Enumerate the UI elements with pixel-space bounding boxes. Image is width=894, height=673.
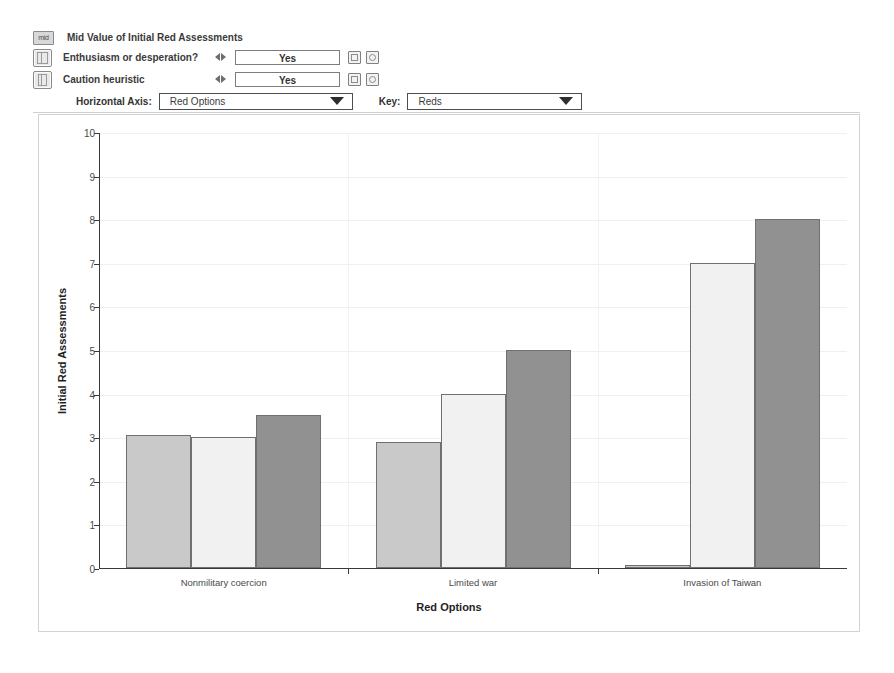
y-axis-tick-label: 0 [89, 564, 95, 575]
y-axis-tick-label: 8 [89, 215, 95, 226]
bar[interactable] [376, 442, 441, 568]
plot-inner: 012345678910 [99, 133, 847, 569]
y-axis-tick-label: 6 [89, 302, 95, 313]
y-axis-tick-label: 7 [89, 258, 95, 269]
grid-icon[interactable] [33, 71, 52, 89]
gridline [100, 177, 847, 178]
x-axis-label: Red Options [39, 601, 859, 613]
control-row-caution: Caution heuristic Yes [33, 71, 379, 88]
bar[interactable] [506, 350, 571, 568]
chevron-down-icon [559, 97, 573, 105]
control-label-enthusiasm: Enthusiasm or desperation? [63, 52, 215, 63]
x-axis-line [99, 568, 847, 569]
control-row-enthusiasm: Enthusiasm or desperation? Yes [33, 49, 379, 66]
axis-key-row: Horizontal Axis: Red Options Key: Reds [33, 92, 582, 110]
y-axis-label: Initial Red Assessments [55, 151, 69, 551]
y-axis-tick-label: 2 [89, 476, 95, 487]
gridline [100, 220, 847, 221]
gridline [100, 133, 847, 134]
horizontal-axis-select[interactable]: Red Options [159, 93, 353, 110]
bar[interactable] [441, 394, 506, 568]
key-label: Key: [379, 96, 401, 107]
chevron-down-icon [330, 97, 344, 105]
plot-area: 012345678910 Nonmilitary coercionLimited… [99, 133, 847, 569]
x-axis-category-label: Nonmilitary coercion [181, 577, 267, 588]
key-value: Reds [408, 96, 441, 107]
mid-value-icon[interactable]: mid [33, 31, 54, 45]
reset-icon-caution[interactable] [366, 73, 379, 86]
y-axis-tick-label: 10 [84, 128, 95, 139]
x-axis-category-label: Limited war [449, 577, 498, 588]
bar[interactable] [256, 415, 321, 568]
x-axis-tick [598, 569, 599, 574]
horizontal-axis-label: Horizontal Axis: [76, 96, 152, 107]
left-right-arrows-icon[interactable] [215, 51, 226, 64]
reset-icon-enthusiasm[interactable] [366, 51, 379, 64]
y-axis-tick-label: 3 [89, 433, 95, 444]
x-axis-tick [348, 569, 349, 574]
bar[interactable] [191, 437, 256, 568]
y-axis-tick-label: 4 [89, 389, 95, 400]
y-axis-tick-label: 1 [89, 520, 95, 531]
control-panel: mid Mid Value of Initial Red Assessments… [33, 28, 860, 113]
page-title: Mid Value of Initial Red Assessments [67, 32, 243, 43]
bar[interactable] [755, 219, 820, 568]
grid-icon[interactable] [33, 49, 52, 67]
value-field-enthusiasm[interactable]: Yes [235, 50, 340, 65]
y-axis-tick-label: 5 [89, 346, 95, 357]
group-separator [348, 133, 349, 569]
control-label-caution: Caution heuristic [63, 74, 215, 85]
bar[interactable] [126, 435, 191, 568]
y-axis-line [99, 133, 100, 569]
key-select[interactable]: Reds [407, 93, 582, 110]
left-right-arrows-icon[interactable] [215, 73, 226, 86]
note-icon-enthusiasm[interactable] [348, 51, 361, 64]
chart-panel: Initial Red Assessments 012345678910 Non… [38, 114, 860, 632]
value-field-caution[interactable]: Yes [235, 72, 340, 87]
x-axis-category-label: Invasion of Taiwan [683, 577, 761, 588]
group-separator [598, 133, 599, 569]
bar[interactable] [690, 263, 755, 568]
panel-title-row: mid Mid Value of Initial Red Assessments [33, 29, 243, 46]
note-icon-caution[interactable] [348, 73, 361, 86]
horizontal-axis-value: Red Options [160, 96, 226, 107]
y-axis-tick-label: 9 [89, 171, 95, 182]
